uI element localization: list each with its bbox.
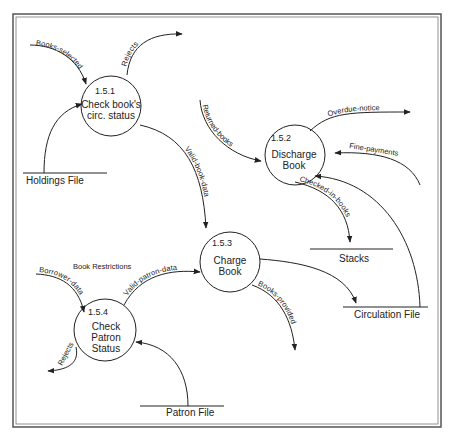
- process-name-line1: Check book's: [81, 99, 141, 110]
- svg-text:Checked-in-books: Checked-in-books: [299, 174, 353, 218]
- flow-valid-book-data: Valid-book-data: [140, 125, 212, 228]
- flow-label: Overdue-notice: [326, 103, 380, 118]
- flow-label: Valid-book-data: [183, 145, 212, 199]
- process-id: 1.5.4: [88, 307, 108, 317]
- book-restrictions-label: Book Restrictions: [73, 262, 132, 271]
- flow-returned-books: Returned-books: [200, 100, 261, 161]
- flow-rejects-2: Rejects: [48, 340, 77, 371]
- flow-borrower-data: Borrower-data: [36, 265, 86, 312]
- flow-holdings-to-1-5-1: [44, 104, 82, 173]
- process-name-line1: Charge: [214, 255, 247, 266]
- data-flow-diagram: Holdings File Stacks Circulation File Pa…: [0, 0, 455, 443]
- data-store-holdings-file: Holdings File: [23, 173, 107, 186]
- flow-label: Books-provided: [257, 279, 299, 325]
- data-store-patron-file: Patron File: [140, 406, 224, 418]
- process-1-5-3: 1.5.3 Charge Book: [200, 232, 260, 292]
- svg-text:Books-selected: Books-selected: [36, 38, 85, 70]
- flow-label: Checked-in-books: [299, 174, 353, 218]
- process-name-line2: Book: [283, 160, 307, 171]
- svg-text:Valid-book-data: Valid-book-data: [183, 145, 212, 199]
- flow-books-provided: Books-provided: [252, 279, 298, 350]
- process-name-line3: Status: [92, 343, 120, 354]
- patron-file-label: Patron File: [166, 407, 215, 418]
- process-name-line2: Patron: [91, 332, 120, 343]
- circulation-file-label: Circulation File: [354, 309, 421, 320]
- process-1-5-1: 1.5.1 Check book's circ. status: [81, 76, 141, 136]
- flow-rejects-1: Rejects: [119, 34, 182, 75]
- flow-fine-payments: Fine-payments: [335, 141, 420, 185]
- svg-text:Overdue-notice: Overdue-notice: [326, 103, 380, 118]
- flow-overdue-notice: Overdue-notice: [310, 103, 410, 131]
- process-name-line1: Check: [92, 321, 121, 332]
- flow-label: Books-selected: [36, 38, 85, 70]
- process-name-line2: circ. status: [87, 110, 135, 121]
- process-name-line2: Book: [219, 266, 243, 277]
- svg-text:Returned-books: Returned-books: [201, 104, 236, 149]
- flow-checked-in-books: Checked-in-books: [295, 174, 353, 242]
- process-id: 1.5.1: [95, 86, 115, 96]
- process-name-line1: Discharge: [271, 149, 316, 160]
- flow-valid-patron-data: Valid-patron-data: [122, 263, 200, 305]
- flow-patron-file-to-1-5-4: [136, 342, 188, 406]
- process-id: 1.5.3: [212, 238, 232, 248]
- data-store-stacks: Stacks: [310, 249, 393, 264]
- svg-text:Books-provided: Books-provided: [257, 279, 299, 325]
- diagram-frame: [13, 14, 441, 427]
- stacks-label: Stacks: [339, 253, 369, 264]
- flow-label: Returned-books: [201, 104, 236, 149]
- data-store-circulation-file: Circulation File: [343, 307, 428, 320]
- process-id: 1.5.2: [271, 133, 291, 143]
- flow-books-selected: Books-selected: [30, 38, 86, 84]
- holdings-file-label: Holdings File: [26, 175, 84, 186]
